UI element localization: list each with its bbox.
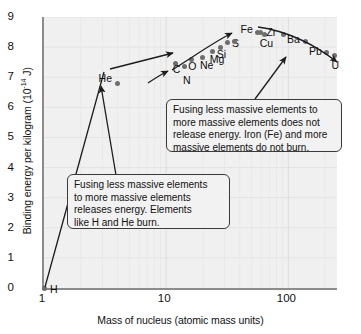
data-point-zr [281, 32, 286, 37]
y-tick-label: 9 [0, 11, 14, 23]
data-point-n [182, 64, 187, 69]
y-tick-label: 4 [0, 162, 14, 174]
element-label-zr: Zr [266, 27, 276, 38]
y-tick-label: 5 [0, 131, 14, 143]
y-axis-title-exponent: -14 [19, 79, 28, 89]
element-label-n: N [183, 75, 191, 86]
callout-line: to more massive elements [74, 192, 223, 205]
y-axis-title: Binding energy per kilogram (10-14 J) [19, 21, 33, 281]
x-tick-label: 10 [144, 292, 184, 304]
element-label-ba: Ba [287, 34, 300, 45]
element-label-o: O [188, 61, 196, 72]
y-tick-label: 3 [0, 192, 14, 204]
x-axis-title: Mass of nucleus (atomic mass units) [0, 314, 361, 326]
callout-line: releases energy. Elements [74, 204, 223, 217]
y-tick-label: 7 [0, 71, 14, 83]
binding-energy-chart-figure: Binding energy per kilogram (10-14 J) 0 … [0, 0, 361, 334]
element-label-c: C [173, 64, 181, 75]
callout-line: like H and He burn. [74, 217, 223, 230]
data-point [232, 39, 237, 44]
element-label-u: U [331, 60, 339, 71]
callout-line: release energy. Iron (Fe) and more [173, 129, 335, 142]
element-label-pb: Pb [309, 46, 322, 57]
data-point-ba [303, 39, 308, 44]
data-point-u [332, 53, 337, 58]
callout-line: massive elements do not burn. [173, 142, 335, 155]
x-tick-label: 100 [266, 292, 306, 304]
data-point-he [115, 81, 120, 86]
element-label-h: H [50, 284, 58, 295]
callout-fusion-releases-energy: Fusing less massive elements to more mas… [67, 174, 230, 229]
y-tick-label: 1 [0, 252, 14, 264]
y-tick-label: 0 [0, 282, 14, 294]
y-axis-title-text: Binding energy per kilogram (10 [21, 89, 33, 235]
y-tick-label: 8 [0, 41, 14, 53]
y-tick-label: 6 [0, 101, 14, 113]
element-label-si: Si [217, 49, 226, 60]
element-label-fe: Fe [241, 24, 253, 35]
callout-line: Fusing less massive elements [74, 179, 223, 192]
y-axis-title-tail: J) [21, 67, 33, 78]
y-tick-label: 2 [0, 222, 14, 234]
callout-fusion-no-energy: Fusing less massive elements to more mas… [166, 99, 342, 152]
data-point-h [42, 286, 47, 291]
callout-line: more massive elements does not [173, 117, 335, 130]
element-label-he: He [99, 73, 112, 84]
element-label-cu: Cu [260, 38, 273, 49]
callout-line: Fusing less massive elements to [173, 104, 335, 117]
